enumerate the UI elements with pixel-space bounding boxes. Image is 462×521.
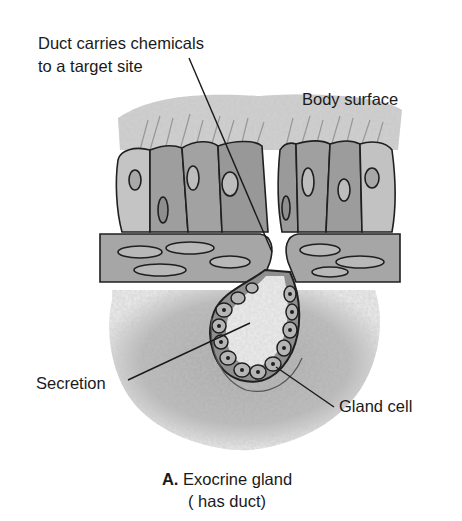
figure-letter: A. xyxy=(162,470,179,488)
duct-label: Duct carries chemicals to a target site xyxy=(38,32,204,78)
body-surface-label: Body surface xyxy=(302,89,398,109)
gland-cell-label: Gland cell xyxy=(339,396,412,416)
fibrous-layer xyxy=(100,234,400,282)
duct-label-line1: Duct carries chemicals xyxy=(38,32,204,55)
secretion-label: Secretion xyxy=(36,373,106,393)
figure-title: Exocrine gland xyxy=(183,470,292,488)
figure-caption: A. Exocrine gland xyxy=(0,468,458,490)
figure-subtitle: ( has duct) xyxy=(0,490,458,512)
duct-label-line2: to a target site xyxy=(38,55,204,78)
epithelial-cells-left xyxy=(116,142,268,233)
epithelial-cells-right xyxy=(278,141,395,232)
exocrine-gland-illustration xyxy=(0,0,462,521)
